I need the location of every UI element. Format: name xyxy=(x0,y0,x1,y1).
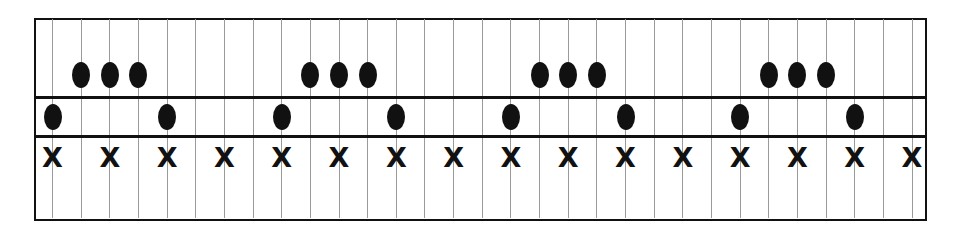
dot-icon xyxy=(760,62,778,88)
x-mark-icon: X xyxy=(99,145,121,171)
x-mark-icon: X xyxy=(729,145,751,171)
dot-icon xyxy=(502,104,520,130)
grid-line xyxy=(195,19,196,218)
x-mark-icon: X xyxy=(385,145,407,171)
grid-line xyxy=(654,19,655,218)
dot-icon xyxy=(158,104,176,130)
x-mark-icon: X xyxy=(615,145,637,171)
dot-icon xyxy=(617,104,635,130)
x-mark-icon: X xyxy=(271,145,293,171)
x-mark-icon: X xyxy=(213,145,235,171)
grid-line xyxy=(568,19,569,218)
grid-line xyxy=(826,19,827,218)
grid-line xyxy=(453,19,454,218)
x-mark-icon: X xyxy=(156,145,178,171)
grid-line xyxy=(339,19,340,218)
grid-line xyxy=(912,19,913,218)
row-separator xyxy=(34,135,925,138)
dot-icon xyxy=(44,104,62,130)
grid-line xyxy=(711,19,712,218)
dot-icon xyxy=(731,104,749,130)
grid-line xyxy=(682,19,683,218)
grid-line xyxy=(310,19,311,218)
x-mark-icon: X xyxy=(786,145,808,171)
grid-line xyxy=(596,19,597,218)
dot-icon xyxy=(273,104,291,130)
grid-line xyxy=(138,19,139,218)
dot-icon xyxy=(817,62,835,88)
dot-icon xyxy=(588,62,606,88)
grid-line xyxy=(109,19,110,218)
dot-icon xyxy=(101,62,119,88)
x-mark-icon: X xyxy=(443,145,465,171)
grid-line xyxy=(768,19,769,218)
grid-line xyxy=(81,19,82,218)
rhythm-diagram: XXXXXXXXXXXXXXXX xyxy=(0,0,955,231)
grid-line xyxy=(797,19,798,218)
grid-line xyxy=(424,19,425,218)
x-mark-icon: X xyxy=(901,145,923,171)
grid-line xyxy=(883,19,884,218)
dot-icon xyxy=(359,62,377,88)
grid-line xyxy=(253,19,254,218)
grid-line xyxy=(539,19,540,218)
grid-line xyxy=(482,19,483,218)
x-mark-icon: X xyxy=(328,145,350,171)
x-mark-icon: X xyxy=(42,145,64,171)
grid-line xyxy=(224,19,225,218)
dot-icon xyxy=(531,62,549,88)
x-mark-icon: X xyxy=(672,145,694,171)
grid-line xyxy=(367,19,368,218)
x-mark-icon: X xyxy=(500,145,522,171)
row-separator xyxy=(34,96,925,99)
x-mark-icon: X xyxy=(557,145,579,171)
dot-icon xyxy=(846,104,864,130)
dot-icon xyxy=(330,62,348,88)
x-mark-icon: X xyxy=(844,145,866,171)
